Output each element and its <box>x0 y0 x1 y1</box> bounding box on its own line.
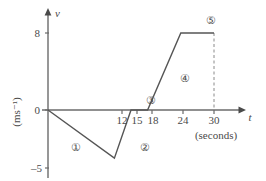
velocity-curve <box>48 33 214 158</box>
y-tick-label-8: 8 <box>35 27 41 39</box>
y-tick-label-neg5: –5 <box>30 162 43 174</box>
region-label-three: ③ <box>146 95 156 106</box>
region-label-one: ① <box>71 142 81 153</box>
x-axis-name-label: t <box>248 111 252 123</box>
x-tick-label-30: 30 <box>209 114 221 126</box>
y-axis-name-label: v <box>55 7 60 19</box>
region-label-two: ② <box>140 142 150 153</box>
chart-canvas: 8 0 –5 12 15 18 24 30 v t (ms⁻¹) (second… <box>0 0 266 181</box>
x-tick-label-15: 15 <box>132 114 144 126</box>
region-label-four: ④ <box>180 73 190 84</box>
x-tick-label-18: 18 <box>148 114 160 126</box>
x-axis-arrow-icon <box>239 107 247 114</box>
region-label-five: ⑤ <box>206 15 216 26</box>
velocity-time-graph: 8 0 –5 12 15 18 24 30 v t (ms⁻¹) (second… <box>0 0 266 181</box>
y-axis-units-label: (ms⁻¹) <box>10 97 23 127</box>
y-tick-label-0: 0 <box>35 104 41 116</box>
y-axis-arrow-icon <box>45 8 52 16</box>
x-tick-label-24: 24 <box>178 114 190 126</box>
x-axis-units-label: (seconds) <box>195 129 237 142</box>
x-tick-label-12: 12 <box>117 114 128 126</box>
